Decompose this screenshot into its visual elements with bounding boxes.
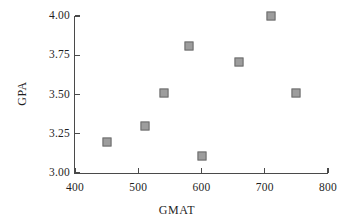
data-point-marker xyxy=(197,151,206,160)
data-point-marker xyxy=(292,88,301,97)
x-axis-tick xyxy=(74,168,75,173)
data-point-marker xyxy=(102,137,111,146)
x-axis-tick xyxy=(138,168,139,173)
y-axis-tick-label-wrap: 3.50 xyxy=(24,89,70,101)
x-axis-tick xyxy=(327,168,328,173)
y-axis-tick-label: 4.00 xyxy=(26,10,70,22)
y-axis-tick xyxy=(75,133,80,134)
data-point-marker xyxy=(184,41,193,50)
x-axis-tick-label: 600 xyxy=(179,182,225,194)
x-axis-tick-label: 500 xyxy=(115,182,161,194)
x-axis-tick-label: 700 xyxy=(242,182,288,194)
y-axis-tick xyxy=(75,15,80,16)
y-axis-tick-label-wrap: 4.00 xyxy=(24,10,70,22)
y-axis-tick-label-wrap: 3.75 xyxy=(24,49,70,61)
y-axis-tick-label: 3.25 xyxy=(26,128,70,140)
y-axis-tick xyxy=(75,55,80,56)
data-point-marker xyxy=(159,88,168,97)
y-axis-tick-label-wrap: 3.25 xyxy=(24,128,70,140)
y-axis-tick-label: 3.75 xyxy=(26,49,70,61)
data-point-marker xyxy=(140,121,149,130)
x-axis-tick-label: 400 xyxy=(52,182,98,194)
y-axis-tick-label: 3.00 xyxy=(26,167,70,179)
scatter-chart: 3.003.253.503.754.00400500600700800 GMAT… xyxy=(0,0,354,224)
y-axis-tick xyxy=(75,94,80,95)
data-point-marker xyxy=(267,12,276,21)
y-axis-tick xyxy=(75,172,80,173)
x-axis-tick xyxy=(264,168,265,173)
x-axis-title: GMAT xyxy=(0,203,354,218)
y-axis-tick-label: 3.50 xyxy=(26,89,70,101)
data-point-marker xyxy=(235,57,244,66)
y-axis-title: GPA xyxy=(15,64,30,124)
y-axis-tick-label-wrap: 3.00 xyxy=(24,167,70,179)
x-axis-tick xyxy=(201,168,202,173)
x-axis-tick-label: 800 xyxy=(305,182,351,194)
